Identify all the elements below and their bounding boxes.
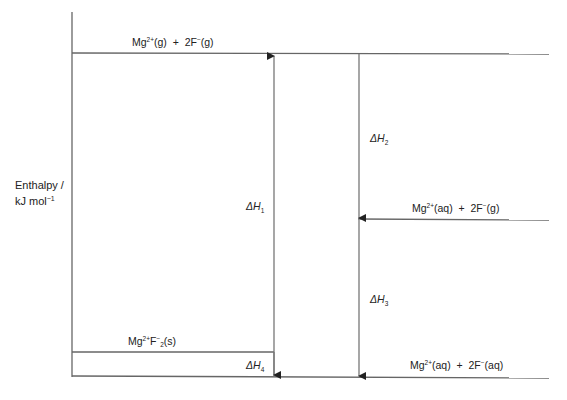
dh2-label: ΔH2 [370, 132, 388, 146]
level-bottom-label: Mg2+(aq) + 2F−(aq) [410, 359, 503, 371]
level-bottom-line [72, 376, 549, 378]
dh4-label: ΔH4 [246, 359, 264, 373]
level-top-label: Mg2+(g) + 2F−(g) [132, 36, 214, 48]
axis-title-line2: kJ mol−1 [15, 192, 64, 208]
level-top-line [72, 53, 549, 54]
level-middle-line [358, 219, 549, 220]
level-middle-label: Mg2+(aq) + 2F−(g) [412, 202, 499, 214]
dh3-label: ΔH3 [370, 293, 388, 307]
level-lattice-label: Mg2+F−2(s) [128, 335, 176, 348]
axis-title: Enthalpy / kJ mol−1 [15, 178, 64, 208]
enthalpy-diagram-canvas [0, 0, 567, 400]
dh1-label: ΔH1 [246, 200, 264, 214]
axis-title-line1: Enthalpy / [15, 178, 64, 192]
